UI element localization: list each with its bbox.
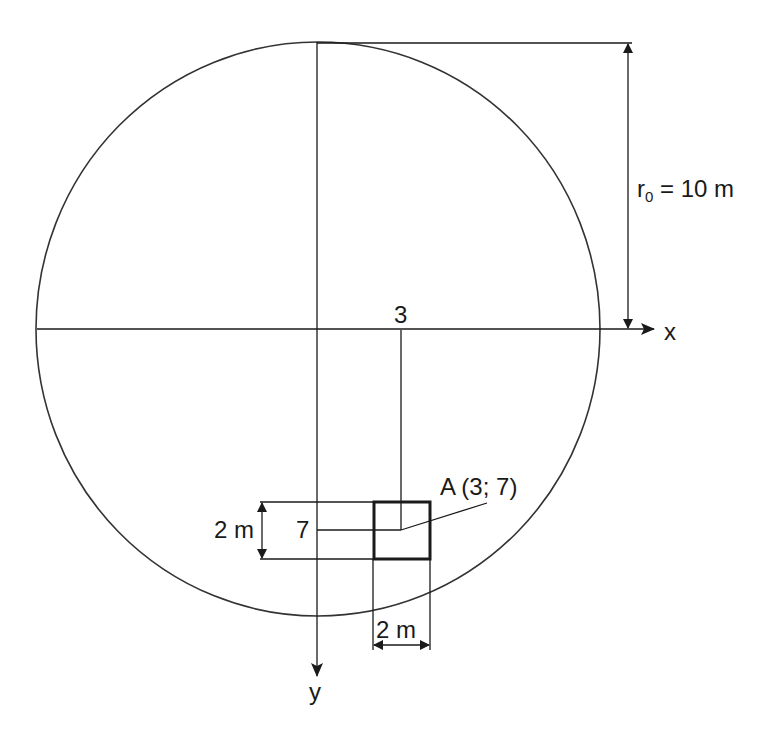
x-axis-label: x xyxy=(664,318,676,345)
diagram-canvas: x y r0 = 10 m 3 7 A (3; 7) 2 m 2 m xyxy=(0,0,773,737)
point-a-label: A (3; 7) xyxy=(440,473,517,500)
y-coordinate-label: 7 xyxy=(296,516,309,543)
point-a-leader-line xyxy=(401,503,487,530)
x-coordinate-label: 3 xyxy=(394,301,407,328)
y-axis-label: y xyxy=(309,678,321,705)
width-label: 2 m xyxy=(376,616,416,643)
height-label: 2 m xyxy=(214,516,254,543)
radius-label: r0 = 10 m xyxy=(637,175,734,205)
